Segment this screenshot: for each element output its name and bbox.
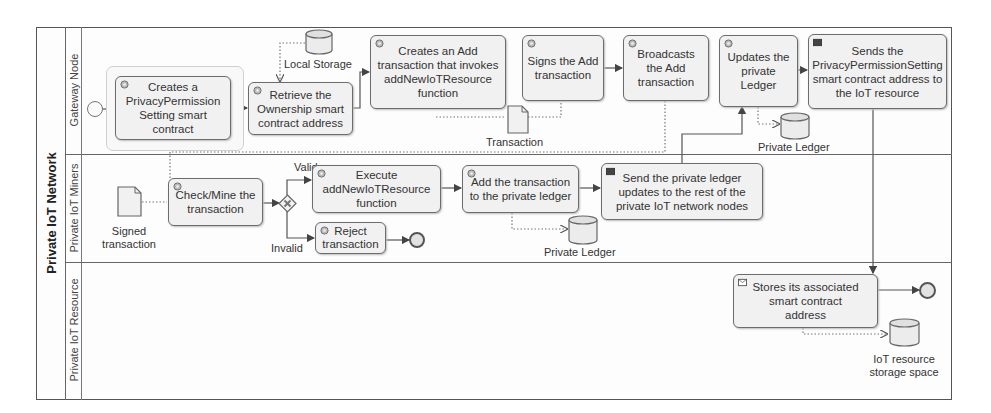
exclusive-gateway[interactable] — [278, 194, 297, 213]
task-label: Broadcasts the Add transaction — [628, 47, 704, 89]
script-task-icon — [527, 39, 536, 48]
script-task-icon — [317, 169, 326, 178]
private-ledger-label: Private Ledger — [544, 246, 616, 259]
task-send-ledger-updates[interactable]: Send the private ledger updates to the r… — [601, 163, 763, 220]
task-sign-add-transaction[interactable]: Signs the Add transaction — [522, 35, 604, 101]
script-task-icon — [467, 169, 476, 178]
task-label: Reject transaction — [320, 225, 381, 251]
task-label: Add the transaction to the private ledge… — [467, 175, 574, 203]
task-create-privacy-permission-contract[interactable]: Creates a PrivacyPermission Setting smar… — [115, 76, 231, 140]
database-icon — [305, 29, 333, 55]
local-storage-label: Local Storage — [284, 58, 352, 71]
document-icon — [507, 105, 529, 134]
task-label: Execute addNewIoTResource function — [317, 168, 436, 210]
task-label: Creates a PrivacyPermission Setting smar… — [120, 80, 226, 136]
script-task-icon — [375, 39, 384, 48]
end-event-stored[interactable] — [919, 282, 936, 299]
task-label: Updates the private Ledger — [724, 50, 793, 92]
task-label: Send the private ledger updates to the r… — [612, 171, 752, 213]
transaction-label: Transaction — [486, 136, 543, 149]
task-check-mine-transaction[interactable]: Check/Mine the transaction — [168, 178, 263, 226]
task-send-contract-address[interactable]: Sends the PrivacyPermissionSetting smart… — [808, 34, 947, 109]
script-task-icon — [628, 39, 637, 48]
task-retrieve-ownership-address[interactable]: Retrieve the Ownership smart contract ad… — [248, 82, 353, 135]
task-label: Signs the Add transaction — [527, 54, 599, 82]
invalid-flow-label: Invalid — [271, 242, 303, 255]
task-add-transaction-to-ledger[interactable]: Add the transaction to the private ledge… — [462, 165, 579, 213]
task-create-add-transaction[interactable]: Creates an Add transaction that invokes … — [370, 35, 506, 109]
database-icon — [568, 215, 598, 245]
task-update-private-ledger[interactable]: Updates the private Ledger — [719, 35, 798, 107]
database-icon — [780, 112, 810, 140]
task-label: Creates an Add transaction that invokes … — [375, 44, 501, 100]
script-task-icon — [120, 80, 129, 89]
send-message-icon — [606, 167, 615, 176]
task-store-contract-address[interactable]: Stores its associated smart contract add… — [733, 274, 878, 328]
script-task-icon — [320, 226, 329, 235]
private-ledger-label: Private Ledger — [758, 141, 830, 154]
start-event[interactable] — [87, 101, 103, 117]
end-event-rejected[interactable] — [409, 232, 425, 248]
task-label: Sends the PrivacyPermissionSetting smart… — [812, 44, 942, 100]
task-label: Check/Mine the transaction — [173, 188, 258, 216]
task-label: Retrieve the Ownership smart contract ad… — [253, 88, 348, 130]
task-reject-transaction[interactable]: Reject transaction — [315, 222, 386, 254]
task-label: Stores its associated smart contract add… — [748, 280, 863, 322]
script-task-icon — [724, 39, 733, 48]
task-broadcast-add-transaction[interactable]: Broadcasts the Add transaction — [623, 35, 709, 101]
script-task-icon — [253, 86, 262, 95]
receive-message-icon — [738, 278, 747, 287]
script-task-icon — [173, 182, 182, 191]
signed-transaction-label: Signed transaction — [98, 225, 160, 251]
iot-storage-label: IoT resource storage space — [862, 353, 946, 379]
database-icon — [889, 318, 920, 347]
document-icon — [117, 186, 142, 217]
send-message-icon — [813, 38, 822, 47]
task-execute-add-resource-function[interactable]: Execute addNewIoTResource function — [312, 165, 441, 213]
